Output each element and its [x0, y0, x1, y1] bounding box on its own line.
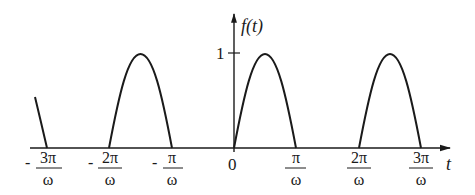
svg-text:-: - — [88, 154, 93, 171]
x-tick-2pi: 2π ω — [347, 149, 371, 188]
svg-text:ω: ω — [416, 171, 427, 188]
svg-text:ω: ω — [105, 171, 116, 188]
x-tick-neg-2pi: - 2π ω — [88, 149, 122, 188]
curve-hump-3 — [359, 54, 421, 148]
x-tick-neg-3pi: - 3π ω — [25, 149, 62, 188]
svg-text:π: π — [292, 149, 300, 166]
half-wave-rectified-sine-diagram: f(t) 1 t 0 - 3π ω - 2π ω - π ω π ω 2π ω … — [0, 0, 475, 195]
svg-text:ω: ω — [43, 171, 54, 188]
svg-text:3π: 3π — [413, 149, 429, 166]
svg-text:ω: ω — [354, 171, 365, 188]
x-tick-neg-pi: - π ω — [152, 149, 183, 188]
svg-text:2π: 2π — [351, 149, 367, 166]
curve-hump-2 — [234, 54, 296, 148]
curve-partial-left — [35, 97, 47, 148]
curve-hump-1 — [109, 54, 172, 148]
svg-text:-: - — [152, 154, 157, 171]
x-tick-3pi: 3π ω — [409, 149, 433, 188]
svg-text:3π: 3π — [40, 149, 56, 166]
origin-label: 0 — [228, 155, 237, 174]
x-axis-label: t — [446, 154, 452, 174]
svg-text:2π: 2π — [102, 149, 118, 166]
y-axis-label: f(t) — [241, 16, 263, 37]
svg-text:ω: ω — [167, 171, 178, 188]
svg-text:π: π — [168, 149, 176, 166]
svg-text:ω: ω — [291, 171, 302, 188]
x-tick-pi: π ω — [285, 149, 306, 188]
y-tick-label-1: 1 — [216, 44, 225, 63]
svg-text:-: - — [25, 154, 30, 171]
